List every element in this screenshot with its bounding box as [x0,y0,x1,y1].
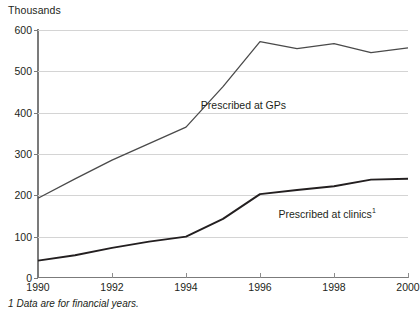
y-tick-label-200: 200 [14,189,32,201]
x-tick-label-1994: 1994 [174,281,197,293]
series-label-1: Prescribed at GPs [201,99,286,111]
y-tick-label-400: 400 [14,107,32,119]
x-tick-label-1998: 1998 [322,281,345,293]
series-line-2 [38,179,408,261]
x-tick-label-1992: 1992 [100,281,123,293]
y-axis-unit-label: Thousands [8,4,61,16]
y-tick-label-500: 500 [14,65,32,77]
y-tick-label-300: 300 [14,148,32,160]
series-lines [38,30,408,278]
x-tick-mark-1994 [186,273,187,278]
y-axis-tick-labels: 0100200300400500600 [0,30,32,278]
x-tick-label-2000: 2000 [396,281,419,293]
series-line-1 [38,42,408,199]
footnote-marker: 1 [8,298,14,309]
x-tick-label-1990: 1990 [26,281,49,293]
x-tick-mark-2000 [408,273,409,278]
plot-area: Prescribed at GPsPrescribed at clinics1 [38,30,408,278]
x-tick-label-1996: 1996 [248,281,271,293]
footnote-text: Data are for financial years. [17,298,139,309]
x-tick-mark-1998 [334,273,335,278]
y-tick-label-100: 100 [14,231,32,243]
x-axis-tick-labels: 199019921994199619982000 [38,281,408,297]
y-tick-label-600: 600 [14,24,32,36]
chart-footnote: 1Data are for financial years. [8,298,139,309]
x-tick-mark-1992 [112,273,113,278]
series-label-2: Prescribed at clinics1 [279,207,376,220]
series-label-footnote-marker: 1 [372,207,376,214]
x-tick-mark-1996 [260,273,261,278]
